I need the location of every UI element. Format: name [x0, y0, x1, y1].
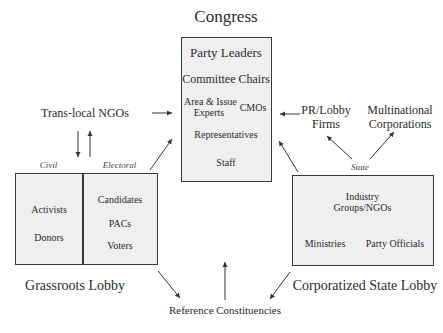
- arrow-state-to-multinational: [370, 132, 394, 159]
- congress-title: Congress: [176, 7, 276, 27]
- ministries-label: Ministries: [295, 238, 355, 249]
- arrow-corporatized-to-reference: [270, 272, 290, 299]
- grassroots-lobby-title: Grassroots Lobby: [10, 278, 140, 294]
- voters-label: Voters: [83, 240, 157, 251]
- corporatized-state-lobby-box: Industry Groups/NGOs Ministries Party Of…: [292, 175, 434, 266]
- multinational-corporations-label: Multinational Corporations: [360, 103, 440, 131]
- area-issue-experts-label: Area & Issue Experts: [184, 96, 234, 118]
- arrow-state-to-congress: [279, 141, 298, 172]
- activists-label: Activists: [16, 204, 82, 215]
- industry-groups-ngos-label: Industry Groups/NGOs: [293, 191, 432, 213]
- party-officials-label: Party Officials: [359, 238, 431, 249]
- pr-lobby-firms-label: PR/Lobby Firms: [300, 103, 352, 131]
- grassroots-lobby-box: Activists Donors Candidates PACs Voters: [15, 173, 158, 265]
- civil-label: Civil: [15, 160, 82, 170]
- reference-constituencies-label: Reference Constituencies: [160, 304, 290, 316]
- candidates-label: Candidates: [83, 194, 157, 205]
- state-label: State: [340, 162, 380, 172]
- cmos-label: CMOs: [237, 102, 269, 113]
- donors-label: Donors: [16, 232, 82, 243]
- pacs-label: PACs: [83, 218, 157, 229]
- arrow-state-to-prlobby: [327, 136, 352, 159]
- representatives-label: Representatives: [182, 129, 270, 140]
- committee-chairs-label: Committee Chairs: [180, 72, 272, 87]
- electoral-label: Electoral: [82, 160, 157, 170]
- arrow-grassroots-to-reference: [158, 271, 180, 298]
- congress-box: Party Leaders Committee Chairs Area & Is…: [181, 37, 272, 182]
- party-leaders-label: Party Leaders: [182, 45, 270, 61]
- staff-label: Staff: [182, 157, 270, 168]
- translocal-ngos-label: Trans-local NGOs: [32, 106, 138, 121]
- corporatized-state-lobby-title: Corporatized State Lobby: [290, 278, 440, 294]
